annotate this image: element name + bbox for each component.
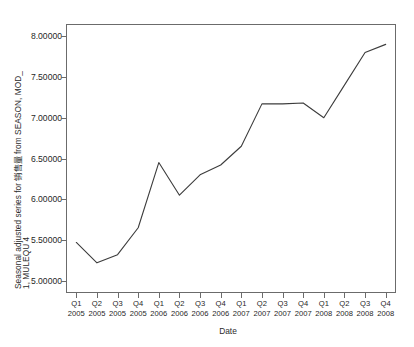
y-axis-tick-label: 8.00000 bbox=[18, 31, 62, 41]
y-axis-tick-label: 6.50000 bbox=[18, 154, 62, 164]
x-axis-tick-mark bbox=[76, 293, 77, 298]
x-axis-tick-mark bbox=[283, 293, 284, 298]
x-axis-tick-mark bbox=[303, 293, 304, 298]
x-axis-tick-label: Q42008 bbox=[371, 299, 401, 319]
x-axis-tick-mark bbox=[241, 293, 242, 298]
series-polyline bbox=[76, 44, 385, 262]
x-axis-title: Date bbox=[0, 326, 414, 336]
line-chart: Seasonal adjusted series for 销售量 from SE… bbox=[0, 0, 414, 347]
x-axis-title-text: Date bbox=[219, 326, 237, 336]
x-axis-tick-mark bbox=[262, 293, 263, 298]
y-axis-tick-label: 7.00000 bbox=[18, 113, 62, 123]
x-axis-tick-mark bbox=[200, 293, 201, 298]
y-axis-tick-label: 6.00000 bbox=[18, 194, 62, 204]
x-axis-tick-mark bbox=[324, 293, 325, 298]
x-tick-quarter: Q4 bbox=[371, 299, 401, 309]
x-axis-tick-mark bbox=[179, 293, 180, 298]
x-axis-tick-mark bbox=[138, 293, 139, 298]
x-axis-tick-mark bbox=[386, 293, 387, 298]
x-tick-year: 2008 bbox=[371, 309, 401, 319]
y-axis-tick-label: 7.50000 bbox=[18, 72, 62, 82]
x-axis-tick-mark bbox=[365, 293, 366, 298]
x-axis-tick-mark bbox=[159, 293, 160, 298]
x-axis-tick-mark bbox=[221, 293, 222, 298]
series-line-seasonal-adjusted bbox=[66, 24, 396, 293]
x-axis-tick-mark bbox=[344, 293, 345, 298]
y-axis-tick-label: 5.50000 bbox=[18, 235, 62, 245]
x-axis-tick-mark bbox=[118, 293, 119, 298]
x-axis-tick-mark bbox=[97, 293, 98, 298]
y-axis-tick-labels: 5.000005.500006.000006.500007.000007.500… bbox=[18, 0, 62, 347]
y-axis-tick-label: 5.00000 bbox=[18, 276, 62, 286]
